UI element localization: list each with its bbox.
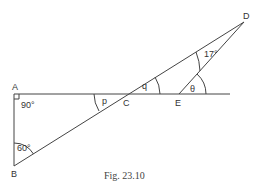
label-angle-q: q — [142, 81, 147, 91]
label-angle-theta: θ — [190, 84, 195, 94]
right-angle-marker — [14, 94, 19, 99]
figure-caption: Fig. 23.10 — [104, 170, 145, 181]
label-angle-A: 90° — [21, 100, 35, 110]
angle-arc-p — [94, 94, 99, 111]
label-angle-D: 17° — [204, 49, 218, 59]
angle-arc-D — [196, 52, 200, 71]
label-point-C: C — [123, 98, 130, 108]
label-angle-B: 60° — [17, 143, 31, 153]
label-point-B: B — [11, 169, 17, 179]
label-point-D: D — [243, 11, 250, 21]
geometry-figure: A B C D E 90° 60° p q 17° θ Fig. 23.10 — [0, 0, 256, 184]
label-point-A: A — [12, 82, 18, 92]
label-angle-p: p — [102, 96, 107, 106]
angle-arc-theta — [197, 74, 206, 94]
label-point-E: E — [175, 98, 181, 108]
angle-arc-q — [155, 77, 160, 94]
